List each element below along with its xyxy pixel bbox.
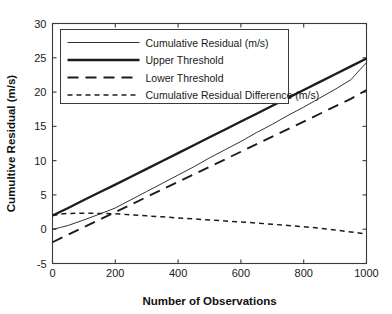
legend-label-lower-threshold: Lower Threshold: [146, 72, 224, 84]
y-tick-label: 15: [34, 120, 46, 132]
cumulative-residual-line-chart: 02004006008001000-5051015202530Number of…: [0, 0, 392, 314]
y-tick-label: 30: [34, 18, 46, 30]
legend-label-cumulative-residual-difference-m-s: Cumulative Residual Difference (m/s): [146, 89, 320, 101]
x-tick-label: 200: [106, 267, 124, 279]
y-tick-label: 25: [34, 52, 46, 64]
y-tick-label: 0: [40, 223, 46, 235]
x-tick-label: 800: [295, 267, 313, 279]
y-tick-label: 20: [34, 86, 46, 98]
x-tick-label: 0: [49, 267, 55, 279]
y-axis-title: Cumultive Residual (m/s): [5, 75, 17, 213]
x-tick-label: 400: [169, 267, 187, 279]
y-tick-label: 5: [40, 189, 46, 201]
legend-label-cumulative-residual-m-s: Cumulative Residual (m/s): [146, 37, 269, 49]
y-tick-label: -5: [37, 258, 47, 270]
x-tick-label: 1000: [354, 267, 378, 279]
x-axis-title: Number of Observations: [142, 295, 276, 307]
x-tick-label: 600: [232, 267, 250, 279]
chart-figure: 02004006008001000-5051015202530Number of…: [0, 0, 392, 314]
y-tick-label: 10: [34, 155, 46, 167]
legend-label-upper-threshold: Upper Threshold: [146, 54, 224, 66]
